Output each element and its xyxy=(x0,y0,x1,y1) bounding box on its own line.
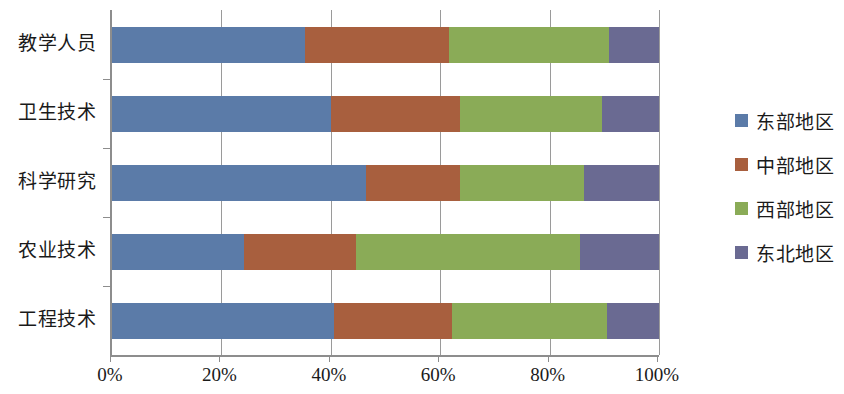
bar-segment[interactable] xyxy=(112,96,331,132)
x-axis-tick xyxy=(657,355,658,362)
x-axis-tick-label: 40% xyxy=(311,364,346,386)
bar-segment[interactable] xyxy=(580,234,659,270)
stacked-bar-chart: 教学人员 卫生技术 科学研究 农业技术 工程技术 0%20%40%60%80%1… xyxy=(0,0,844,394)
y-axis-tick xyxy=(103,148,110,149)
bar-segment[interactable] xyxy=(607,303,659,339)
bar-segment[interactable] xyxy=(112,27,305,63)
x-axis-tick-label: 80% xyxy=(530,364,565,386)
bar-segment[interactable] xyxy=(366,165,460,201)
bar-segment[interactable] xyxy=(449,27,609,63)
legend: 东部地区中部地区西部地区东北地区 xyxy=(735,107,844,266)
bar-segment[interactable] xyxy=(334,303,452,339)
y-axis-tick xyxy=(103,286,110,287)
bar-row xyxy=(112,96,659,132)
y-axis-ticks xyxy=(103,10,110,355)
stacked-bar[interactable] xyxy=(112,27,659,63)
legend-item[interactable]: 东北地区 xyxy=(735,239,844,266)
y-axis-label-3: 农业技术 xyxy=(0,241,103,262)
y-axis-label-4: 工程技术 xyxy=(0,310,103,331)
bar-segment[interactable] xyxy=(460,165,584,201)
legend-swatch-icon xyxy=(735,114,748,127)
bar-row xyxy=(112,234,659,270)
bar-series-container xyxy=(112,10,659,355)
bar-segment[interactable] xyxy=(305,27,449,63)
bar-segment[interactable] xyxy=(112,303,334,339)
bar-segment[interactable] xyxy=(609,27,659,63)
stacked-bar[interactable] xyxy=(112,303,659,339)
bar-segment[interactable] xyxy=(112,234,244,270)
y-axis-label-1: 卫生技术 xyxy=(0,103,103,124)
x-axis-ticks xyxy=(110,355,657,362)
x-axis-tick xyxy=(548,355,549,362)
x-axis-tick-label: 60% xyxy=(421,364,456,386)
y-axis-label-0: 教学人员 xyxy=(0,34,103,55)
bar-segment[interactable] xyxy=(602,96,659,132)
bar-row xyxy=(112,27,659,63)
legend-label: 东部地区 xyxy=(756,107,834,134)
legend-swatch-icon xyxy=(735,158,748,171)
legend-item[interactable]: 东部地区 xyxy=(735,107,844,134)
gridline-100 xyxy=(659,10,660,355)
x-axis-tick xyxy=(219,355,220,362)
x-axis-tick xyxy=(329,355,330,362)
stacked-bar[interactable] xyxy=(112,234,659,270)
bar-segment[interactable] xyxy=(331,96,460,132)
bar-segment[interactable] xyxy=(244,234,356,270)
bar-segment[interactable] xyxy=(584,165,659,201)
legend-label: 西部地区 xyxy=(756,195,834,222)
bar-segment[interactable] xyxy=(112,165,366,201)
x-axis-tick-label: 100% xyxy=(635,364,679,386)
legend-swatch-icon xyxy=(735,202,748,215)
x-axis-tick xyxy=(110,355,111,362)
bar-row xyxy=(112,165,659,201)
y-axis-label-2: 科学研究 xyxy=(0,172,103,193)
x-axis-tick-label: 20% xyxy=(202,364,237,386)
legend-label: 东北地区 xyxy=(756,239,834,266)
legend-swatch-icon xyxy=(735,246,748,259)
bar-segment[interactable] xyxy=(356,234,580,270)
bar-segment[interactable] xyxy=(460,96,602,132)
stacked-bar[interactable] xyxy=(112,165,659,201)
x-axis-tick-labels: 0%20%40%60%80%100% xyxy=(110,364,657,392)
bar-segment[interactable] xyxy=(452,303,607,339)
y-axis-tick xyxy=(103,79,110,80)
legend-item[interactable]: 西部地区 xyxy=(735,195,844,222)
legend-item[interactable]: 中部地区 xyxy=(735,151,844,178)
y-axis-category-labels: 教学人员 卫生技术 科学研究 农业技术 工程技术 xyxy=(0,10,103,355)
stacked-bar[interactable] xyxy=(112,96,659,132)
bar-row xyxy=(112,303,659,339)
x-axis-tick xyxy=(438,355,439,362)
legend-label: 中部地区 xyxy=(756,151,834,178)
x-axis-tick-label: 0% xyxy=(97,364,122,386)
plot-area xyxy=(110,10,659,355)
y-axis-tick xyxy=(103,217,110,218)
